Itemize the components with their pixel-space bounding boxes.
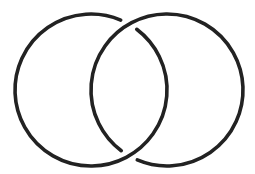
- interlinked-rings-diagram: [0, 0, 255, 174]
- diagram-canvas: [0, 0, 255, 174]
